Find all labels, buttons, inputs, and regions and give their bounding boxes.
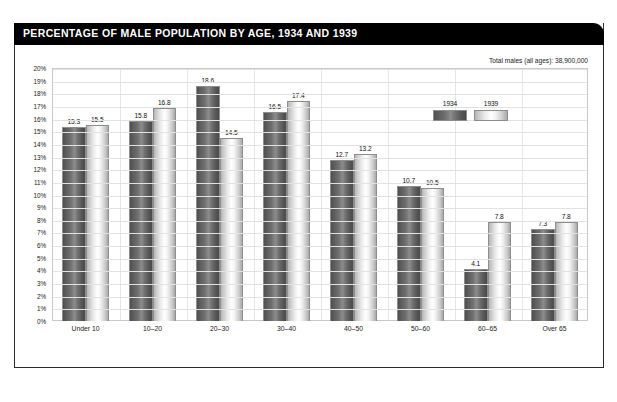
gridline-horizontal xyxy=(53,69,587,70)
bar-1939-20–30[interactable] xyxy=(220,138,244,321)
y-axis-tick-label: 6% xyxy=(37,242,46,249)
gridline-horizontal xyxy=(53,309,587,310)
legend-swatch-1934 xyxy=(433,110,467,121)
y-axis: 0%1%2%3%4%5%6%7%8%9%10%11%12%13%14%15%16… xyxy=(14,68,50,321)
y-axis-tick-label: 8% xyxy=(37,216,46,223)
y-axis-tick-label: 13% xyxy=(34,153,47,160)
y-axis-tick-label: 11% xyxy=(34,178,46,185)
bar-value-label: 15.8 xyxy=(129,112,153,119)
y-axis-tick-label: 3% xyxy=(37,280,46,287)
chart-title-bar: PERCENTAGE OF MALE POPULATION BY AGE, 19… xyxy=(14,23,604,45)
bar-1934-50–60[interactable] xyxy=(397,186,421,321)
x-axis-tick-label: 40–50 xyxy=(320,325,387,332)
x-axis-tick-label: Under 10 xyxy=(52,325,119,332)
y-axis-tick-label: 20% xyxy=(34,65,47,72)
gridline-horizontal xyxy=(53,233,587,234)
gridline-horizontal xyxy=(53,82,587,83)
bar-1934-20–30[interactable] xyxy=(196,86,220,321)
gridline-horizontal xyxy=(53,221,587,222)
bar-value-label: 17.4 xyxy=(287,92,311,99)
gridline-horizontal xyxy=(53,158,587,159)
bar-value-label: 16.8 xyxy=(153,99,177,106)
y-axis-tick-label: 17% xyxy=(34,102,47,109)
gridline-horizontal xyxy=(53,284,587,285)
bar-value-label: 18.6 xyxy=(196,77,220,84)
x-axis-tick-label: Over 65 xyxy=(521,325,588,332)
gridline-horizontal xyxy=(53,196,587,197)
total-males-annotation: Total males (all ages): 38,900,000 xyxy=(489,57,588,64)
bar-1934-over-65[interactable] xyxy=(531,229,555,321)
y-axis-tick-label: 16% xyxy=(34,115,47,122)
bar-group: 12.713.2 xyxy=(320,68,387,321)
bar-1934-60–65[interactable] xyxy=(464,269,488,321)
y-axis-tick-label: 19% xyxy=(34,77,47,84)
x-axis-tick-label: 30–40 xyxy=(253,325,320,332)
gridline-horizontal xyxy=(53,297,587,298)
bar-group: 15.816.8 xyxy=(119,68,186,321)
y-axis-tick-label: 18% xyxy=(34,90,47,97)
bar-value-label: 4.1 xyxy=(464,260,488,267)
y-axis-tick-label: 9% xyxy=(37,204,46,211)
bar-group: 15.315.5 xyxy=(52,68,119,321)
x-axis-tick-label: 50–60 xyxy=(387,325,454,332)
gridline-horizontal xyxy=(53,208,587,209)
bar-value-label: 13.2 xyxy=(354,145,378,152)
gridline-horizontal xyxy=(53,259,587,260)
bar-1939-10–20[interactable] xyxy=(153,108,177,321)
bar-group: 18.614.5 xyxy=(186,68,253,321)
y-axis-tick-label: 4% xyxy=(37,267,46,274)
bar-value-label: 7.8 xyxy=(555,213,579,220)
gridline-horizontal xyxy=(53,246,587,247)
y-axis-tick-label: 1% xyxy=(37,305,46,312)
x-axis-tick-label: 20–30 xyxy=(186,325,253,332)
x-axis: Under 1010–2020–3030–4040–5050–6060–65Ov… xyxy=(52,325,588,345)
bar-group: 16.517.4 xyxy=(253,68,320,321)
bar-group: 7.37.8 xyxy=(521,68,588,321)
bar-1934-30–40[interactable] xyxy=(263,112,287,321)
gridline-horizontal xyxy=(53,107,587,108)
y-axis-tick-label: 12% xyxy=(34,166,47,173)
gridline-horizontal xyxy=(53,132,587,133)
legend-swatch-1939 xyxy=(474,110,508,121)
x-axis-tick-label: 10–20 xyxy=(119,325,186,332)
gridline-horizontal xyxy=(53,145,587,146)
legend-label: 1939 xyxy=(474,100,508,107)
bar-1939-30–40[interactable] xyxy=(287,101,311,321)
bar-value-label: 7.8 xyxy=(488,213,512,220)
chart-body: Total males (all ages): 38,900,000 0%1%2… xyxy=(14,45,604,368)
chart-page: PERCENTAGE OF MALE POPULATION BY AGE, 19… xyxy=(0,0,617,402)
bar-1939-under-10[interactable] xyxy=(86,125,110,321)
y-axis-tick-label: 5% xyxy=(37,254,46,261)
y-axis-tick-label: 10% xyxy=(34,191,47,198)
gridline-horizontal xyxy=(53,271,587,272)
gridline-horizontal xyxy=(53,170,587,171)
gridline-horizontal xyxy=(53,94,587,95)
y-axis-tick-label: 14% xyxy=(34,140,47,147)
y-axis-tick-label: 2% xyxy=(37,292,46,299)
x-axis-tick-label: 60–65 xyxy=(454,325,521,332)
y-axis-tick-label: 15% xyxy=(34,128,47,135)
page-title: PERCENTAGE OF MALE POPULATION BY AGE, 19… xyxy=(23,27,357,39)
gridline-horizontal xyxy=(53,183,587,184)
y-axis-tick-label: 7% xyxy=(37,229,46,236)
bar-1934-under-10[interactable] xyxy=(62,127,86,321)
y-axis-tick-label: 0% xyxy=(37,318,46,325)
legend-label: 1934 xyxy=(433,100,467,107)
